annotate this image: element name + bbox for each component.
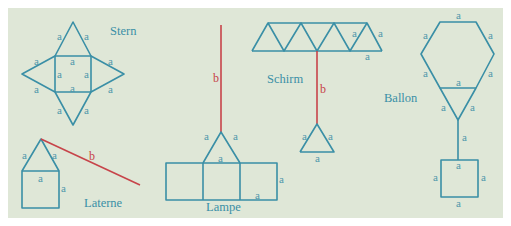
edge-label: a [70, 55, 75, 67]
edge-label: a [378, 27, 383, 39]
edge-label: a [57, 104, 62, 116]
edge-label: a [462, 131, 467, 143]
edge-label: a [328, 130, 333, 142]
edge-label: a [456, 76, 461, 88]
edge-label: a [488, 67, 493, 79]
edge-label: a [108, 83, 113, 95]
edge-label: a [70, 82, 75, 94]
edge-label: a [302, 130, 307, 142]
ballon-figure: a a a a a a a a a a a a a Ballon [384, 9, 494, 209]
edge-label: a [34, 83, 39, 95]
lampe-squares [166, 163, 277, 200]
edge-label: a [84, 30, 89, 42]
edge-label: a [218, 152, 223, 164]
stern-title: Stern [110, 24, 137, 38]
edge-label: a [57, 30, 62, 42]
lampe-title: Lampe [206, 200, 241, 214]
edge-label: a [52, 149, 57, 161]
lampe-figure: b a a a a a Lampe [166, 25, 284, 214]
edge-label: a [470, 101, 475, 113]
edge-label: a [456, 9, 461, 21]
edge-label: a [433, 171, 438, 183]
stern-figure: Stern a a a a a a a a a a a a [22, 22, 137, 125]
edge-label: a [255, 189, 260, 201]
schirm-title: Schirm [267, 72, 303, 86]
edge-label: a [279, 173, 284, 185]
ballon-title: Ballon [384, 91, 418, 105]
edge-label: a [38, 172, 43, 184]
edge-label: a [233, 130, 238, 142]
schirm-zigzag [252, 23, 382, 51]
string-label: b [89, 149, 95, 163]
string-label: b [320, 82, 326, 96]
edge-label: a [441, 101, 446, 113]
edge-label: a [456, 197, 461, 209]
edge-label: a [22, 149, 27, 161]
edge-label: a [34, 55, 39, 67]
edge-label: a [456, 159, 461, 171]
edge-label: a [84, 68, 89, 80]
schirm-figure: a a a b a a a Schirm [252, 23, 383, 164]
laterne-title: Laterne [84, 196, 123, 210]
edge-label: a [481, 171, 486, 183]
string-label: b [213, 71, 219, 85]
edge-label: a [488, 29, 493, 41]
edge-label: a [423, 29, 428, 41]
edge-label: a [352, 27, 357, 39]
edge-label: a [423, 67, 428, 79]
laterne-figure: a a a a b Laterne [22, 139, 140, 210]
edge-label: a [315, 152, 320, 164]
edge-label: a [57, 68, 62, 80]
net-diagrams: Stern a a a a a a a a a a a a a a a a b … [0, 0, 511, 226]
edge-label: a [84, 104, 89, 116]
edge-label: a [365, 50, 370, 62]
edge-label: a [108, 55, 113, 67]
edge-label: a [204, 130, 209, 142]
edge-label: a [61, 182, 66, 194]
